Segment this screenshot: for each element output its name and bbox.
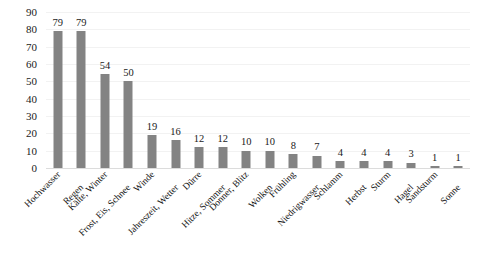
bar[interactable] [407, 163, 416, 168]
x-axis-tick-label: Frühling [268, 170, 298, 200]
plot-area: 7979545019161212101087444311 [46, 12, 470, 168]
y-axis-tick-label: 20 [26, 128, 37, 139]
bar[interactable] [359, 161, 368, 168]
bar-slot: 50 [117, 12, 141, 168]
bar[interactable] [383, 161, 392, 168]
y-axis-tick-label: 0 [32, 163, 38, 174]
bars-layer: 7979545019161212101087444311 [46, 12, 470, 168]
x-axis-tick-label: Hochwasser [23, 170, 63, 210]
y-axis-tick-label: 90 [26, 7, 37, 18]
y-axis-tick-label: 70 [26, 41, 37, 52]
bar-value-label: 16 [170, 127, 181, 138]
bar-slot: 4 [329, 12, 353, 168]
bar[interactable] [289, 154, 298, 168]
bar-slot: 4 [352, 12, 376, 168]
bar-value-label: 19 [147, 122, 158, 133]
bar-slot: 4 [376, 12, 400, 168]
bar-slot: 79 [70, 12, 94, 168]
x-axis-tick-label: Winde [132, 170, 156, 194]
x-axis-tick-label: Sonne [439, 183, 463, 207]
bar-value-label: 4 [338, 148, 343, 159]
bar-value-label: 1 [432, 153, 437, 164]
y-axis-tick-label: 60 [26, 59, 37, 70]
bar-slot: 19 [140, 12, 164, 168]
bar-value-label: 7 [314, 142, 319, 153]
y-axis-tick-label: 50 [26, 76, 37, 87]
bar-value-label: 3 [408, 149, 413, 160]
bar[interactable] [171, 140, 180, 168]
bar[interactable] [430, 166, 439, 168]
bar-slot: 10 [258, 12, 282, 168]
bar-slot: 54 [93, 12, 117, 168]
bar[interactable] [312, 156, 321, 168]
y-axis-tick-label: 80 [26, 24, 37, 35]
bar-value-label: 1 [456, 153, 461, 164]
bar-value-label: 79 [53, 18, 64, 29]
y-axis: 9080706050403020100 [0, 12, 42, 168]
bar-value-label: 79 [76, 18, 87, 29]
bar[interactable] [53, 31, 62, 168]
bar-value-label: 4 [361, 148, 366, 159]
bar[interactable] [147, 135, 156, 168]
bar-slot: 79 [46, 12, 70, 168]
bar-slot: 10 [234, 12, 258, 168]
gridline [46, 168, 470, 169]
bar[interactable] [195, 147, 204, 168]
bar[interactable] [265, 151, 274, 168]
x-axis-tick-label: Wolken [247, 183, 274, 210]
y-axis-tick-label: 40 [26, 93, 37, 104]
bar-value-label: 54 [100, 61, 111, 72]
y-axis-tick-label: 10 [26, 145, 37, 156]
bar[interactable] [336, 161, 345, 168]
bar-value-label: 4 [385, 148, 390, 159]
bar-value-label: 12 [194, 134, 205, 145]
bar-value-label: 10 [241, 137, 252, 148]
bar[interactable] [100, 74, 109, 168]
bar-value-label: 12 [217, 134, 228, 145]
bar-value-label: 8 [291, 141, 296, 152]
x-axis-tick-label: Jahreszeit, Wetter [126, 183, 180, 237]
x-axis-tick-label: Dürre [181, 170, 203, 192]
bar-slot: 12 [187, 12, 211, 168]
bar-value-label: 50 [123, 68, 134, 79]
bar-slot: 8 [282, 12, 306, 168]
bar-slot: 16 [164, 12, 188, 168]
x-axis: HochwasserRegenKälte, WinterFrost, Eis, … [46, 170, 470, 274]
bar[interactable] [454, 166, 463, 168]
bar-slot: 1 [423, 12, 447, 168]
bar[interactable] [242, 151, 251, 168]
x-axis-tick-label: Herbst [344, 183, 369, 208]
y-axis-tick-label: 30 [26, 111, 37, 122]
bar-slot: 12 [211, 12, 235, 168]
bar-slot: 3 [399, 12, 423, 168]
bar[interactable] [218, 147, 227, 168]
bar[interactable] [77, 31, 86, 168]
bar-slot: 1 [446, 12, 470, 168]
bar-value-label: 10 [265, 137, 276, 148]
bar-slot: 7 [305, 12, 329, 168]
x-axis-tick-label: Sturm [369, 170, 392, 193]
bar[interactable] [124, 81, 133, 168]
bar-chart: 9080706050403020100 79795450191612121010… [0, 0, 477, 274]
